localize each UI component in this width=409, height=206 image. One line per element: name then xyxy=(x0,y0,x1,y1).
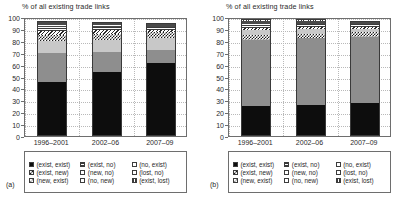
bar-segment-lostno xyxy=(92,23,122,25)
bar-segment-existexist xyxy=(92,72,122,136)
legend-swatch-icon xyxy=(284,170,289,175)
bar-segment-newexist xyxy=(37,41,67,53)
bar-segment-existno xyxy=(241,30,271,35)
gridline-vertical xyxy=(25,19,26,136)
legend-label: (new, exist) xyxy=(37,177,69,184)
gridline-vertical xyxy=(283,19,284,136)
bar-segment-newno xyxy=(241,28,271,30)
legend-item[interactable]: (exist, lost) xyxy=(132,177,183,184)
legend-label: (exist, new) xyxy=(37,169,69,176)
x-tick-label: 1996–2001 xyxy=(238,139,273,146)
legend-swatch-icon xyxy=(132,170,137,175)
bar-segment-newno xyxy=(350,27,380,29)
chart-title-b: % of all existing trade links xyxy=(226,2,314,11)
legend-item[interactable]: (exist, no) xyxy=(284,161,335,168)
bar-2002–06 xyxy=(92,19,122,136)
bar-segment-lostno xyxy=(241,21,271,23)
plot-area-b xyxy=(228,18,391,137)
bar-segment-newexist xyxy=(296,34,326,39)
legend-swatch-icon xyxy=(29,178,34,183)
bar-segment-existnew xyxy=(92,52,122,72)
legend-item[interactable]: (new, exist) xyxy=(29,177,80,184)
legend-swatch-icon xyxy=(80,178,85,183)
x-tick-label: 2007–09 xyxy=(350,139,377,146)
legend-swatch-icon xyxy=(336,162,341,167)
plot-inner-a xyxy=(25,19,186,136)
gridline-vertical xyxy=(79,19,80,136)
legend-swatch-icon xyxy=(336,170,341,175)
legend-item[interactable]: (no, exist) xyxy=(132,161,183,168)
bar-segment-existlost xyxy=(350,21,380,22)
bar-segment-existno xyxy=(146,32,176,38)
y-tick-label: 40 xyxy=(216,86,224,93)
legend-item[interactable]: (lost, no) xyxy=(336,169,387,176)
y-tick-label: 100 xyxy=(212,15,224,22)
legend-item[interactable]: (exist, lost) xyxy=(336,177,387,184)
legend-swatch-icon xyxy=(233,170,238,175)
legend-item[interactable]: (no, new) xyxy=(284,177,335,184)
bar-1996–2001 xyxy=(241,19,271,136)
x-axis-a: 1996–20012002–062007–09 xyxy=(24,139,187,149)
gridline-vertical xyxy=(134,19,135,136)
bar-segment-lostno xyxy=(146,24,176,26)
legend-swatch-icon xyxy=(284,178,289,183)
y-tick-label: 80 xyxy=(216,38,224,45)
x-tick-label: 2002–06 xyxy=(296,139,323,146)
bar-segment-newno xyxy=(296,27,326,29)
bar-segment-existno xyxy=(92,34,122,40)
legend-item[interactable]: (new, exist) xyxy=(233,177,284,184)
legend-a: (exist, exist)(exist, no)(no, exist)(exi… xyxy=(24,151,187,193)
panel-a: % of all existing trade links 0102030405… xyxy=(0,0,204,206)
y-tick-label: 60 xyxy=(216,62,224,69)
legend-swatch-icon xyxy=(80,170,85,175)
bar-segment-existnew xyxy=(350,37,380,102)
legend-item[interactable]: (exist, no) xyxy=(80,161,131,168)
y-tick-label: 0 xyxy=(16,134,20,141)
bar-segment-lostno xyxy=(296,21,326,23)
bar-segment-newno xyxy=(37,31,67,35)
legend-item[interactable]: (new, no) xyxy=(80,169,131,176)
legend-item[interactable]: (exist, exist) xyxy=(29,161,80,168)
legend-swatch-icon xyxy=(29,170,34,175)
bar-segment-existexist xyxy=(37,82,67,136)
bar-segment-existlost xyxy=(146,23,176,24)
legend-item[interactable]: (no, exist) xyxy=(336,161,387,168)
legend-item[interactable]: (no, new) xyxy=(80,177,131,184)
bar-2007–09 xyxy=(350,19,380,136)
bar-segment-existnew xyxy=(37,53,67,83)
legend-label: (new, no) xyxy=(88,169,114,176)
panel-letter-b: (b) xyxy=(210,181,219,188)
bar-segment-existlost xyxy=(241,19,271,20)
bar-segment-newexist xyxy=(92,40,122,52)
y-tick-label: 20 xyxy=(216,110,224,117)
y-tick-mark xyxy=(21,137,24,138)
legend-swatch-icon xyxy=(233,162,238,167)
bar-segment-lostno xyxy=(37,22,67,24)
y-axis-b: 0102030405060708090100 xyxy=(204,18,226,137)
legend-item[interactable]: (exist, new) xyxy=(29,169,80,176)
legend-item[interactable]: (lost, no) xyxy=(132,169,183,176)
y-tick-label: 70 xyxy=(12,50,20,57)
x-axis-b: 1996–20012002–062007–09 xyxy=(228,139,391,149)
gridline-vertical xyxy=(229,19,230,136)
bar-segment-existexist xyxy=(350,103,380,136)
bar-segment-newexist xyxy=(146,38,176,50)
legend-label: (no, exist) xyxy=(343,161,371,168)
y-tick-label: 50 xyxy=(12,74,20,81)
legend-label: (exist, no) xyxy=(88,161,116,168)
legend-label: (exist, lost) xyxy=(343,177,373,184)
bar-segment-existexist xyxy=(296,105,326,136)
panel-letter-a: (a) xyxy=(6,181,15,188)
legend-swatch-icon xyxy=(284,162,289,167)
legend-swatch-icon xyxy=(29,162,34,167)
y-tick-label: 0 xyxy=(220,134,224,141)
legend-item[interactable]: (exist, new) xyxy=(233,169,284,176)
legend-swatch-icon xyxy=(132,162,137,167)
x-tick-label: 1996–2001 xyxy=(34,139,69,146)
bar-segment-existno xyxy=(350,29,380,33)
x-tick-label: 2007–09 xyxy=(146,139,173,146)
bar-segment-existlost xyxy=(37,21,67,22)
legend-item[interactable]: (exist, exist) xyxy=(233,161,284,168)
bar-1996–2001 xyxy=(37,19,67,136)
legend-item[interactable]: (new, no) xyxy=(284,169,335,176)
